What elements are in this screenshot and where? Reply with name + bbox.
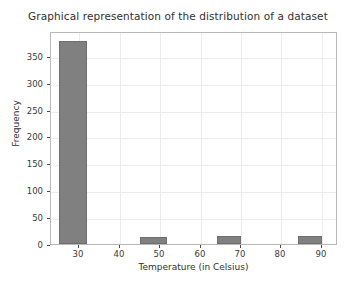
chart-title: Graphical representation of the distribu… xyxy=(0,10,356,23)
y-tick-mark xyxy=(47,245,50,246)
x-tick-mark xyxy=(321,245,322,248)
x-tick-mark xyxy=(119,245,120,248)
y-axis-label: Frequency xyxy=(11,74,22,174)
x-tick-mark xyxy=(240,245,241,248)
x-tick-mark xyxy=(78,245,79,248)
x-tick-mark xyxy=(159,245,160,248)
y-tick-mark xyxy=(47,57,50,58)
plot-area xyxy=(50,32,337,245)
y-tick-mark xyxy=(47,84,50,85)
histogram-bar xyxy=(140,237,167,244)
y-tick-mark xyxy=(47,191,50,192)
y-tick-mark xyxy=(47,111,50,112)
x-tick-label: 40 xyxy=(104,250,134,259)
histogram-figure: Graphical representation of the distribu… xyxy=(0,0,356,287)
y-tick-label: 250 xyxy=(0,107,43,116)
y-tick-label: 50 xyxy=(0,214,43,223)
y-tick-label: 150 xyxy=(0,160,43,169)
histogram-bar xyxy=(217,236,241,244)
x-tick-label: 50 xyxy=(144,250,174,259)
x-axis-label: Temperature (in Celsius) xyxy=(50,262,337,273)
y-tick-label: 200 xyxy=(0,133,43,142)
x-tick-mark xyxy=(280,245,281,248)
x-tick-label: 80 xyxy=(265,250,295,259)
x-tick-label: 60 xyxy=(185,250,215,259)
y-tick-label: 100 xyxy=(0,187,43,196)
x-tick-label: 30 xyxy=(63,250,93,259)
y-tick-label: 300 xyxy=(0,80,43,89)
y-tick-label: 350 xyxy=(0,53,43,62)
y-tick-mark xyxy=(47,137,50,138)
x-tick-mark xyxy=(200,245,201,248)
x-tick-label: 90 xyxy=(306,250,336,259)
x-tick-label: 70 xyxy=(225,250,255,259)
y-tick-label: 0 xyxy=(0,241,43,250)
y-tick-mark xyxy=(47,164,50,165)
y-tick-mark xyxy=(47,218,50,219)
bars-container xyxy=(51,33,336,244)
histogram-bar xyxy=(298,236,322,244)
histogram-bar xyxy=(59,41,86,244)
